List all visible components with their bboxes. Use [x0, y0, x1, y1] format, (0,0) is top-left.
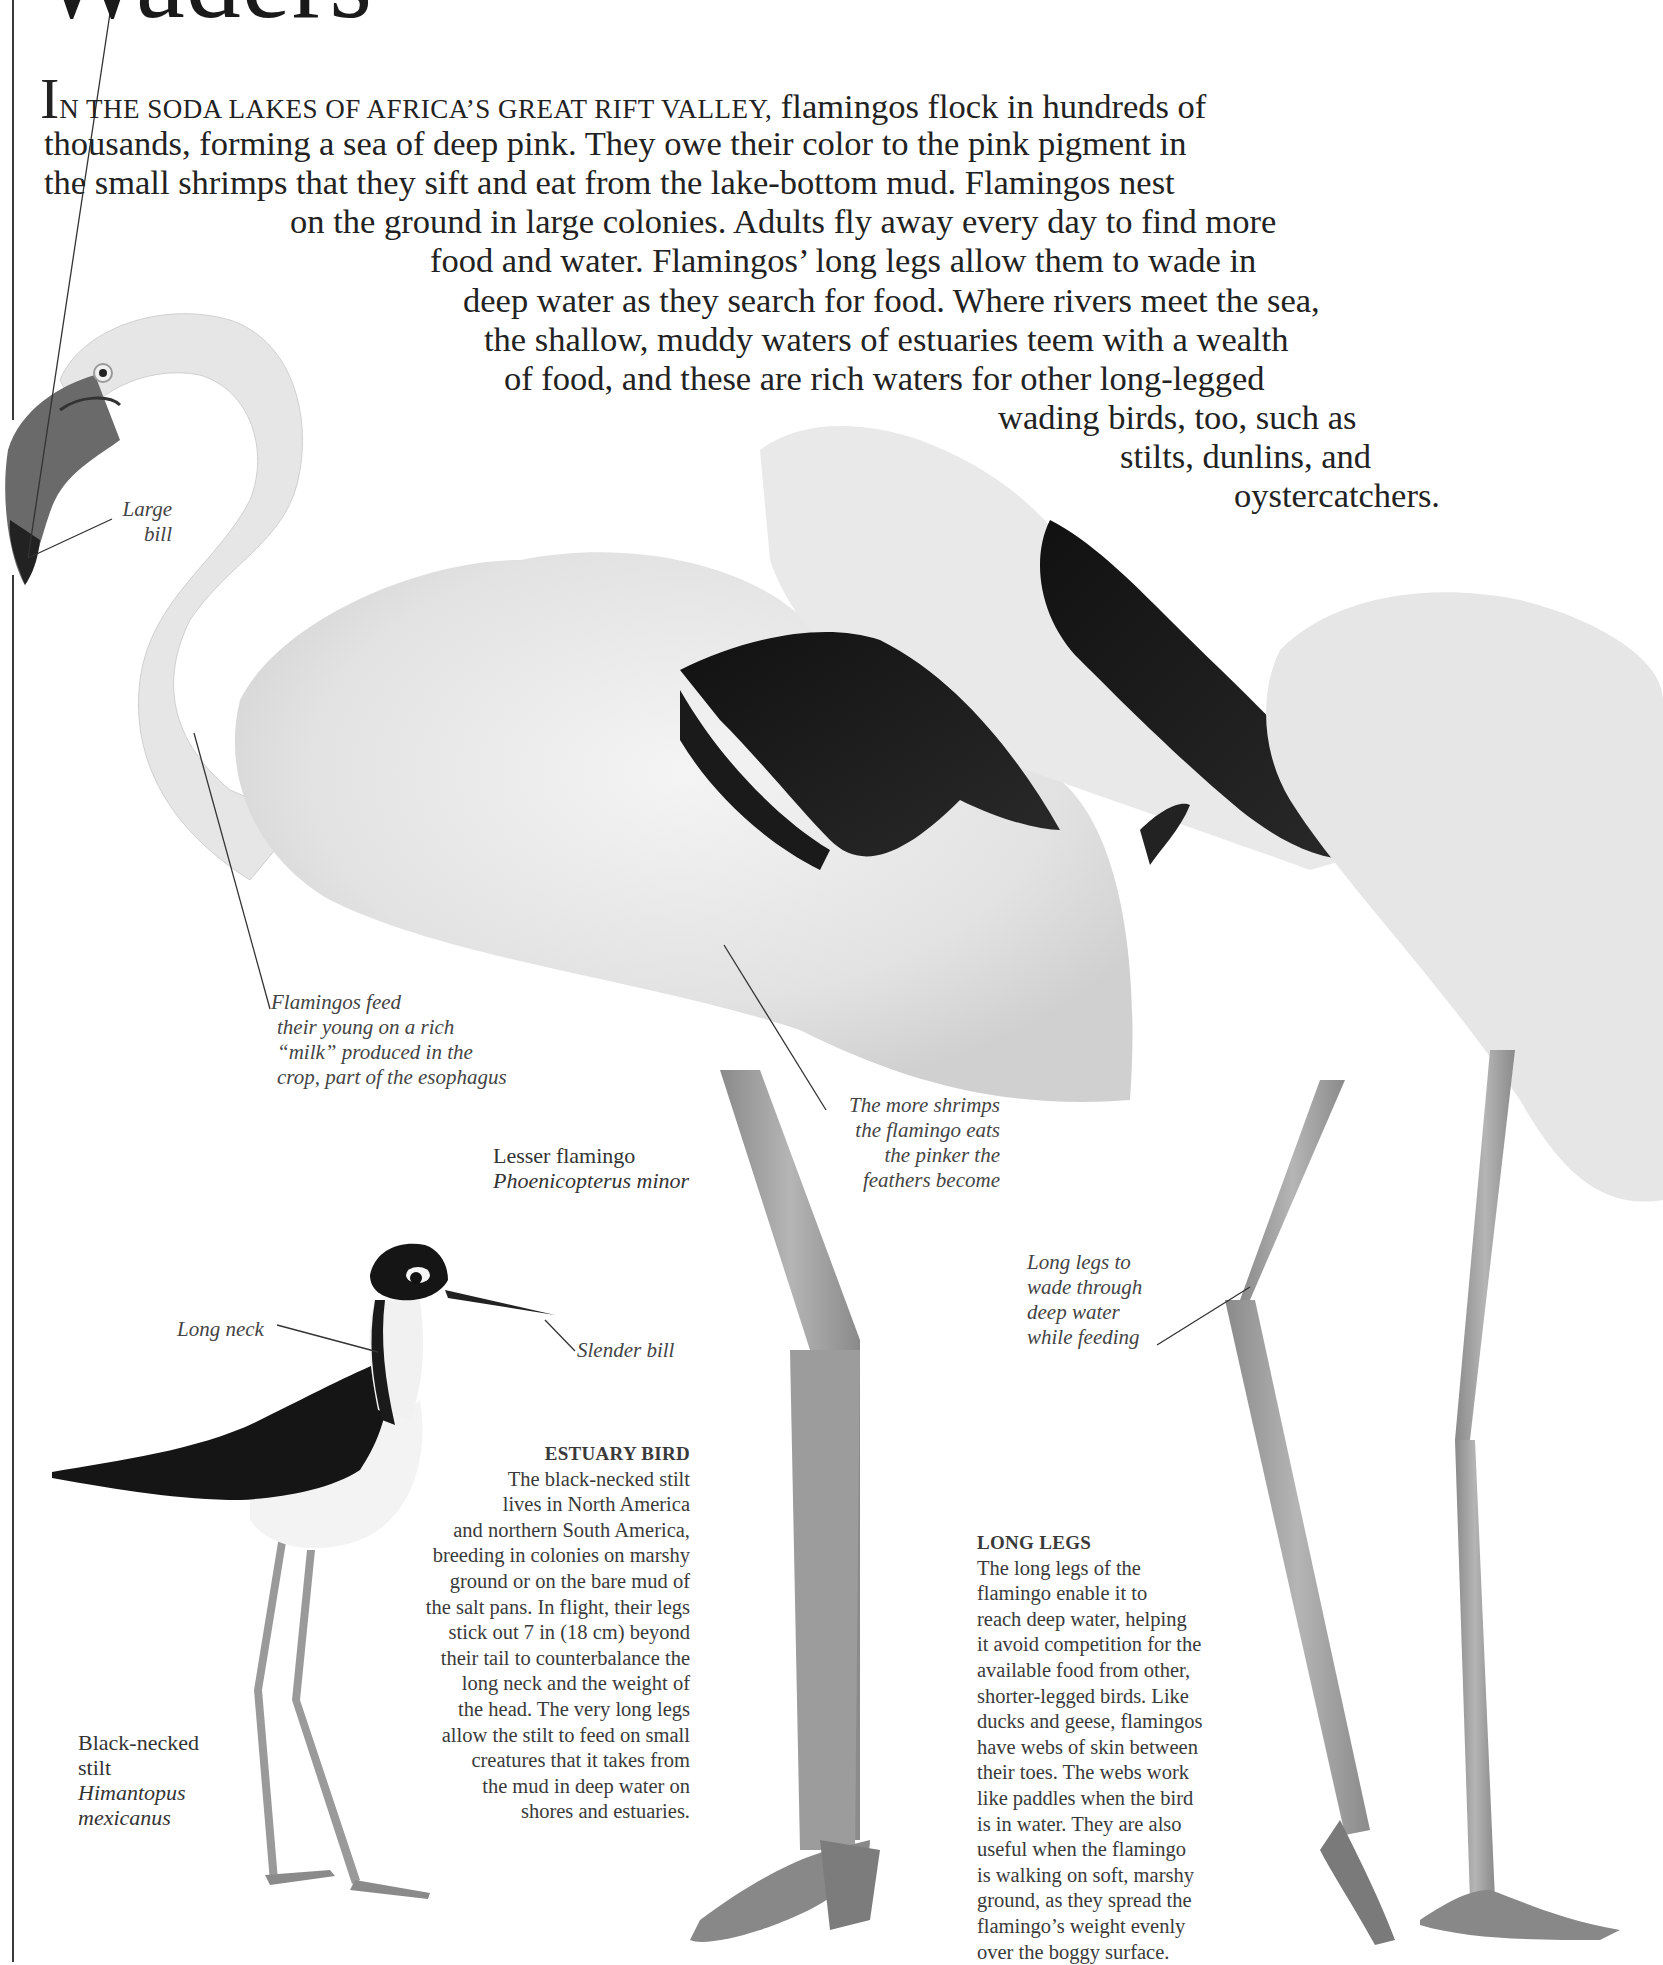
long-legs-line: it avoid competition for the — [977, 1632, 1202, 1658]
caption-crop-milk-line-4: crop, part of the esophagus — [271, 1065, 507, 1090]
estuary-line: shores and estuaries. — [320, 1799, 690, 1825]
estuary-line: the head. The very long legs — [320, 1697, 690, 1723]
long-legs-line: available food from other, — [977, 1658, 1202, 1684]
caption-shrimps-line-1: The more shrimps — [820, 1093, 1000, 1118]
intro-line-5: food and water. Flamingos’ long legs all… — [430, 241, 1256, 281]
long-legs-line: reach deep water, helping — [977, 1607, 1202, 1633]
intro-line-7: the shallow, muddy waters of estuaries t… — [484, 320, 1288, 360]
estuary-line: the mud in deep water on — [320, 1774, 690, 1800]
estuary-line: allow the stilt to feed on small — [320, 1723, 690, 1749]
intro-line-6: deep water as they search for food. Wher… — [463, 281, 1320, 321]
intro-line-1: IN THE SODA LAKES OF AFRICA’S GREAT RIFT… — [40, 70, 1206, 130]
intro-line-10: stilts, dunlins, and — [1120, 437, 1371, 477]
caption-shrimps-line-3: the pinker the — [820, 1143, 1000, 1168]
caption-long-legs-line-1: Long legs to — [1027, 1250, 1142, 1275]
flamingo-common-name: Lesser flamingo — [493, 1143, 689, 1168]
estuary-line: the salt pans. In flight, their legs — [320, 1595, 690, 1621]
caption-shrimps: The more shrimps the flamingo eats the p… — [820, 1093, 1000, 1193]
intro-line-4: on the ground in large colonies. Adults … — [290, 202, 1276, 242]
estuary-line: long neck and the weight of — [320, 1671, 690, 1697]
species-label-flamingo: Lesser flamingo Phoenicopterus minor — [493, 1143, 689, 1193]
intro-dropcap: I — [40, 66, 59, 131]
caption-crop-milk: Flamingos feed their young on a rich “mi… — [271, 990, 507, 1090]
intro-line-9: wading birds, too, such as — [998, 398, 1356, 438]
caption-long-legs-line-3: deep water — [1027, 1300, 1142, 1325]
caption-crop-milk-line-3: “milk” produced in the — [271, 1040, 507, 1065]
caption-long-legs-wade: Long legs to wade through deep water whi… — [1027, 1250, 1142, 1350]
long-legs-line: have webs of skin between — [977, 1735, 1202, 1761]
long-legs-line: like paddles when the bird — [977, 1786, 1202, 1812]
long-legs-line: flamingo’s weight evenly — [977, 1914, 1202, 1940]
intro-line-8: of food, and these are rich waters for o… — [504, 359, 1265, 399]
caption-large-bill-line-2: bill — [100, 522, 172, 547]
long-legs-line: their toes. The webs work — [977, 1760, 1202, 1786]
estuary-line: and northern South America, — [320, 1518, 690, 1544]
estuary-line: breeding in colonies on marshy — [320, 1543, 690, 1569]
estuary-line: lives in North America — [320, 1492, 690, 1518]
long-legs-heading: LONG LEGS — [977, 1530, 1202, 1556]
caption-slender-bill: Slender bill — [577, 1338, 674, 1363]
intro-line-2: thousands, forming a sea of deep pink. T… — [44, 124, 1186, 164]
caption-crop-milk-line-1: Flamingos feed — [271, 990, 507, 1015]
stilt-common-name-line-1: Black-necked — [78, 1730, 199, 1755]
estuary-line: their tail to counterbalance the — [320, 1646, 690, 1672]
intro-line-11: oystercatchers. — [1234, 476, 1440, 516]
long-legs-line: ducks and geese, flamingos — [977, 1709, 1202, 1735]
stilt-scientific-name-line-1: Himantopus — [78, 1780, 199, 1805]
estuary-line: The black-necked stilt — [320, 1467, 690, 1493]
caption-long-legs-line-2: wade through — [1027, 1275, 1142, 1300]
flamingo-scientific-name: Phoenicopterus minor — [493, 1168, 689, 1193]
second-flamingo-legs — [1225, 1050, 1620, 1945]
long-legs-section: LONG LEGS The long legs of the flamingo … — [977, 1530, 1202, 1965]
estuary-line: creatures that it takes from — [320, 1748, 690, 1774]
caption-large-bill: Large bill — [100, 497, 172, 547]
long-legs-line: over the boggy surface. — [977, 1940, 1202, 1965]
estuary-bird-heading: ESTUARY BIRD — [320, 1441, 690, 1467]
long-legs-line: is walking on soft, marshy — [977, 1863, 1202, 1889]
stilt-common-name-line-2: stilt — [78, 1755, 199, 1780]
long-legs-line: ground, as they spread the — [977, 1888, 1202, 1914]
species-label-stilt: Black-necked stilt Himantopus mexicanus — [78, 1730, 199, 1830]
caption-crop-milk-line-2: their young on a rich — [271, 1015, 507, 1040]
caption-long-legs-line-4: while feeding — [1027, 1325, 1142, 1350]
long-legs-line: The long legs of the — [977, 1556, 1202, 1582]
caption-shrimps-line-4: feathers become — [820, 1168, 1000, 1193]
estuary-bird-section: ESTUARY BIRD The black-necked stilt live… — [320, 1441, 690, 1825]
estuary-line: ground or on the bare mud of — [320, 1569, 690, 1595]
intro-line-3: the small shrimps that they sift and eat… — [44, 163, 1175, 203]
long-legs-line: flamingo enable it to — [977, 1581, 1202, 1607]
flamingo-legs — [690, 1070, 880, 1942]
long-legs-line: useful when the flamingo — [977, 1837, 1202, 1863]
stilt-scientific-name-line-2: mexicanus — [78, 1805, 199, 1830]
long-legs-line: shorter-legged birds. Like — [977, 1684, 1202, 1710]
page-title: Waders — [40, 0, 373, 35]
long-legs-line: is in water. They are also — [977, 1812, 1202, 1838]
caption-long-neck: Long neck — [177, 1317, 264, 1342]
intro-smallcaps: N THE SODA LAKES OF AFRICA’S GREAT RIFT … — [59, 94, 772, 124]
intro-line-1-text: flamingos flock in hundreds of — [772, 87, 1206, 125]
caption-large-bill-line-1: Large — [100, 497, 172, 522]
caption-shrimps-line-2: the flamingo eats — [820, 1118, 1000, 1143]
estuary-line: stick out 7 in (18 cm) beyond — [320, 1620, 690, 1646]
